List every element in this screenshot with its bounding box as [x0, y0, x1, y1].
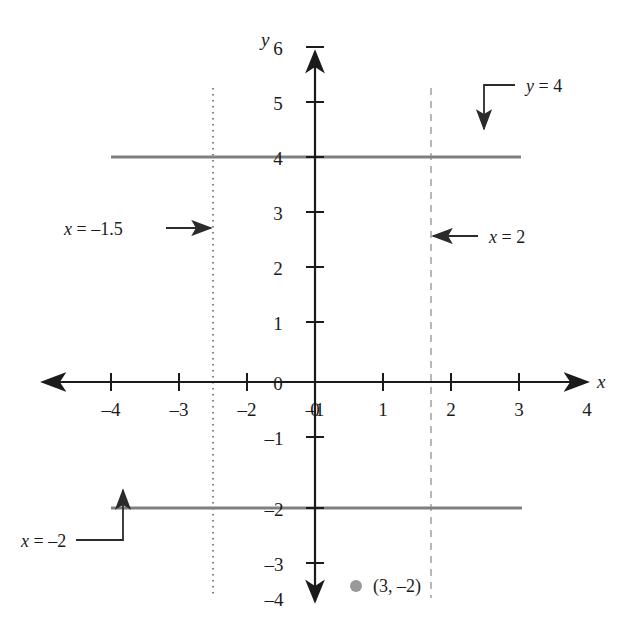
x-tick-label-3: 3 — [504, 400, 534, 419]
annotation-x-equals-neg-2: x = –2 — [21, 532, 66, 550]
y-tick-label-neg-1: –1 — [255, 429, 293, 448]
leader-y-equals-4 — [484, 85, 515, 129]
point-marker-3-neg2 — [350, 580, 362, 592]
y-tick-label-5: 5 — [263, 94, 293, 113]
point-label-3-neg2: (3, –2) — [373, 577, 421, 595]
y-tick-label-4: 4 — [263, 149, 293, 168]
annotation-y-equals-4-rest: = 4 — [534, 76, 562, 96]
y-tick-label-0: 0 — [263, 374, 293, 393]
annotation-x-equals-neg-1-5: x = –1.5 — [64, 220, 123, 238]
x-tick-label-1: 1 — [368, 400, 398, 419]
x-tick-label-neg-2: –2 — [228, 400, 266, 419]
annotation-x-equals-neg-2-var: x — [21, 531, 29, 551]
y-tick-label-neg-2: –2 — [255, 500, 293, 519]
y-tick-label-neg-4: –4 — [255, 590, 293, 609]
x-tick-label-neg-3: –3 — [160, 400, 198, 419]
annotation-x-equals-neg-2-rest: = –2 — [29, 531, 66, 551]
annotation-y-equals-4: y = 4 — [526, 77, 562, 95]
y-tick-label-2: 2 — [263, 259, 293, 278]
annotation-x-equals-neg-1-5-var: x — [64, 219, 72, 239]
annotation-x-equals-2: x = 2 — [489, 228, 525, 246]
x-tick-label-neg-4: –4 — [92, 400, 130, 419]
y-tick-label-3: 3 — [263, 204, 293, 223]
x-tick-label-4: 4 — [572, 400, 602, 419]
annotation-y-equals-4-var: y — [526, 76, 534, 96]
x-tick-label-0: 0 — [300, 400, 330, 419]
y-tick-label-1: 1 — [263, 314, 293, 333]
x-axis-label: x — [597, 372, 605, 391]
leader-x-equals-neg-2 — [76, 490, 123, 540]
annotation-x-equals-neg-1-5-rest: = –1.5 — [72, 219, 123, 239]
annotation-x-equals-2-rest: = 2 — [497, 227, 525, 247]
x-tick-label-2: 2 — [436, 400, 466, 419]
annotation-x-equals-2-var: x — [489, 227, 497, 247]
y-tick-label-6: 6 — [263, 39, 293, 58]
coordinate-plane-figure: y x 6 5 4 3 2 1 0 –1 –2 –3 –4 –4 –3 –2 –… — [0, 0, 630, 622]
y-tick-label-neg-3: –3 — [255, 555, 293, 574]
